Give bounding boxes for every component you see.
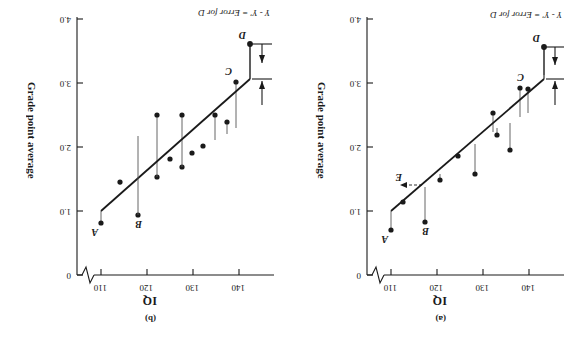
x-tick-130-b: 130 xyxy=(186,283,200,292)
y-tick-1-a: 1.0 xyxy=(350,207,361,216)
panel-caption-a: (a) xyxy=(436,314,447,323)
y-tick-0-a: 0 xyxy=(357,271,362,280)
point-label-B-a: B xyxy=(422,226,429,236)
error-note-b: Y - Y' = Error for D xyxy=(198,8,270,17)
error-bracket-b xyxy=(252,44,272,105)
x-axis-b xyxy=(77,267,274,283)
panel-b: (b) IQ 0 1.0 2.0 3.0 4.0 Grade point ave… xyxy=(0,0,290,337)
point-label-C-a: C xyxy=(517,72,524,82)
point-label-A-a: A xyxy=(381,234,388,244)
y-axis-b xyxy=(77,17,83,275)
x-tick-120-b: 120 xyxy=(140,283,154,292)
y-tick-4-b: 4.0 xyxy=(60,15,71,24)
y-axis-title-a: Grade point average xyxy=(316,82,327,179)
point-label-A-b: A xyxy=(91,227,98,237)
regression-line-a xyxy=(391,79,544,211)
error-bracket-a xyxy=(546,47,564,105)
point-label-D-b: D xyxy=(239,30,246,40)
y-tick-2-a: 2.0 xyxy=(350,143,361,152)
x-axis-a xyxy=(367,267,564,283)
y-tick-2-b: 2.0 xyxy=(60,143,71,152)
point-label-C-b: C xyxy=(225,66,232,76)
residual-extra-b xyxy=(138,156,182,215)
x-tick-110-b: 110 xyxy=(94,283,107,292)
regression-line-b xyxy=(101,79,250,211)
point-label-E-a: E xyxy=(395,172,402,182)
x-tick-110-a: 110 xyxy=(384,283,397,292)
x-tick-140-a: 140 xyxy=(522,283,536,292)
error-note-a: Y - Y' = Error for D xyxy=(490,10,562,19)
y-tick-1-b: 1.0 xyxy=(60,207,71,216)
y-tick-4-a: 4.0 xyxy=(350,15,361,24)
point-label-D-a: D xyxy=(533,33,540,43)
x-tick-140-b: 140 xyxy=(232,283,246,292)
x-axis-title-b: IQ xyxy=(142,295,157,307)
x-axis-title-a: IQ xyxy=(432,295,447,307)
x-tick-120-a: 120 xyxy=(430,283,444,292)
x-tick-130-a: 130 xyxy=(476,283,490,292)
panel-caption-b: (b) xyxy=(145,314,156,323)
point-label-B-b: B xyxy=(135,219,142,229)
y-axis-title-b: Grade point average xyxy=(26,82,37,179)
y-tick-3-b: 3.0 xyxy=(60,79,71,88)
y-axis-a xyxy=(367,17,373,275)
figure-root: (a) IQ 0 1.0 2.0 3.0 4.0 Grade point ave… xyxy=(0,0,580,337)
panel-a: (a) IQ 0 1.0 2.0 3.0 4.0 Grade point ave… xyxy=(290,0,580,337)
y-tick-0-b: 0 xyxy=(67,271,72,280)
y-tick-3-a: 3.0 xyxy=(350,79,361,88)
